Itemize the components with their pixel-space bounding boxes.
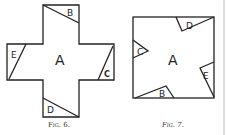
fig7-label-b: B	[159, 89, 165, 99]
fig7-cut-b	[135, 86, 174, 98]
fig7-label-a: A	[168, 52, 178, 68]
figures-canvas: A B E C D Fig. 6. A D C E B Fig. 7.	[0, 0, 226, 135]
fig7-label-e: E	[203, 71, 209, 81]
fig7-caption: Fig. 7.	[161, 121, 184, 129]
fig6-label-e: E	[11, 50, 17, 60]
fig7-label-d: D	[186, 21, 193, 31]
fig7-cut-d	[176, 17, 214, 31]
fig6-label-b: B	[67, 8, 73, 18]
fig6-caption: Fig. 6.	[48, 121, 70, 129]
fig6-label-d: D	[47, 105, 54, 115]
fig6-label-c: C	[104, 70, 110, 79]
fig6-label-a: A	[55, 52, 65, 68]
fig7-label-c: C	[137, 47, 143, 57]
fig6-cut-b	[43, 5, 79, 23]
